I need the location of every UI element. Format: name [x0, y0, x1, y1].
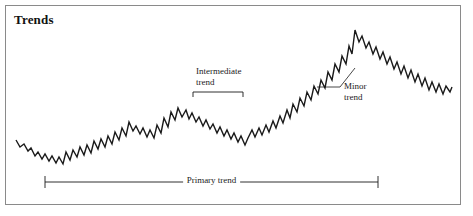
trends-figure: Trends Intermediate trend Minor trend Pr…: [0, 0, 473, 216]
intermediate-trend-label-line2: trend: [196, 77, 241, 88]
price-trend-line: [16, 30, 452, 164]
intermediate-bracket-path: [193, 92, 243, 97]
intermediate-trend-bracket: [193, 92, 243, 97]
intermediate-trend-label: Intermediate trend: [196, 66, 241, 88]
primary-trend-label: Primary trend: [183, 175, 241, 186]
minor-trend-label-line2: trend: [344, 92, 367, 103]
minor-trend-label: Minor trend: [344, 81, 367, 103]
minor-trend-label-line1: Minor: [344, 81, 367, 92]
intermediate-trend-label-line1: Intermediate: [196, 66, 241, 77]
